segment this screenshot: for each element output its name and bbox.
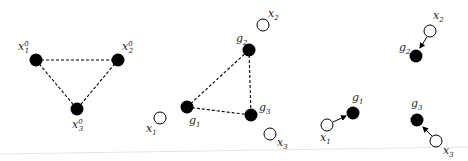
panel-goal-and-agents: g2 g1 g3 x1 x2 x3 <box>146 7 288 151</box>
label-x3: x3 <box>443 144 454 159</box>
node-x1 <box>321 119 333 131</box>
label-x1: x1 <box>146 122 157 137</box>
node-g1 <box>181 101 194 114</box>
node-g1 <box>347 107 360 120</box>
node-x2 <box>424 25 436 37</box>
label-g1: g1 <box>352 91 364 106</box>
node-g3 <box>411 114 424 127</box>
label-x1: x1 <box>320 131 331 146</box>
arrow-x2-to-g2 <box>420 37 427 48</box>
label-x2-0: x02 <box>122 40 134 55</box>
arrow-x3-to-g3 <box>423 127 432 136</box>
node-g3 <box>245 109 258 122</box>
label-g2: g2 <box>236 32 248 47</box>
label-g3: g3 <box>259 101 271 116</box>
baseline-divider <box>0 147 468 154</box>
dashed-edge <box>187 50 249 107</box>
label-g3: g3 <box>411 97 423 112</box>
node-x1-initial <box>30 54 43 67</box>
node-x3 <box>264 128 276 140</box>
label-g1: g1 <box>189 114 201 129</box>
dashed-edge <box>249 50 251 115</box>
panel-initial-configuration: x01 x02 x03 <box>18 40 134 133</box>
formation-diagram: x01 x02 x03 g2 g1 g3 x1 x2 x3 g1 g2 g3 <box>0 0 468 161</box>
label-x2: x2 <box>268 7 279 22</box>
node-x3 <box>430 135 442 147</box>
node-x3-initial <box>71 103 84 116</box>
dashed-edge <box>36 60 77 109</box>
label-x3: x3 <box>277 136 288 151</box>
node-x1 <box>154 112 166 124</box>
arrow-x1-to-g1 <box>333 116 346 122</box>
panel-assignment: g1 g2 g3 x1 x2 x3 <box>320 9 454 159</box>
dashed-edge <box>187 107 251 115</box>
label-g2: g2 <box>399 41 411 56</box>
node-x2 <box>257 19 269 31</box>
label-x3-0: x03 <box>72 118 84 133</box>
label-x1-0: x01 <box>18 40 29 55</box>
node-g2 <box>410 50 423 63</box>
node-x2-initial <box>112 54 125 67</box>
dashed-edge <box>77 60 118 109</box>
label-x2: x2 <box>433 9 444 24</box>
